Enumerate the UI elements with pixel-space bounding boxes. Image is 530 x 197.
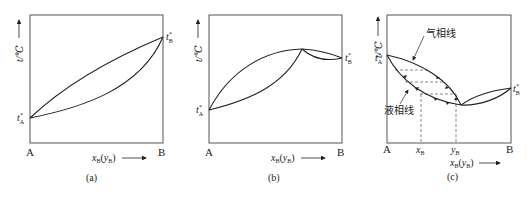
axis-end-label-B: B bbox=[506, 143, 513, 155]
panel-caption: (c) bbox=[447, 171, 458, 183]
liquid-curve-left bbox=[209, 49, 302, 110]
vapor-curve bbox=[30, 37, 163, 118]
tA-label: t*A bbox=[196, 104, 204, 117]
plot-frame bbox=[209, 15, 342, 143]
xB-tick-label: xB bbox=[415, 144, 424, 156]
tB-label: t*B bbox=[513, 83, 520, 96]
liquid-curve-right bbox=[461, 88, 511, 105]
axis-end-label-A: A bbox=[26, 146, 34, 158]
y-axis-label: t/℃ bbox=[14, 45, 25, 62]
vapor-curve-left bbox=[209, 49, 302, 110]
vapor-curve-right bbox=[461, 88, 511, 105]
liquid-curve-right bbox=[302, 49, 342, 60]
liquid-curve bbox=[30, 37, 163, 118]
direction-arrow-icons bbox=[403, 75, 458, 105]
x-axis-label: xB(yB) bbox=[449, 157, 474, 169]
panel-caption: (a) bbox=[86, 172, 97, 184]
x-axis-label: xB(yB) bbox=[270, 152, 295, 164]
liquid-label-pointer bbox=[400, 90, 408, 104]
tB-label: t*B bbox=[345, 52, 352, 65]
plot-frame bbox=[30, 15, 163, 143]
axis-end-label-B: B bbox=[158, 146, 165, 158]
liquid-line-label: 液相线 bbox=[384, 104, 414, 116]
liquid-curve bbox=[387, 55, 461, 105]
axis-end-label-A: A bbox=[383, 143, 391, 155]
tA-label: t*A bbox=[17, 112, 25, 125]
vapor-curve bbox=[387, 55, 461, 105]
yB-tick-label: yB bbox=[450, 144, 459, 156]
panel-caption: (b) bbox=[268, 172, 280, 184]
panel-a: t/℃ t*A t*B A B xB(yB) (a) bbox=[14, 15, 173, 184]
axis-end-label-A: A bbox=[205, 146, 213, 158]
panel-c: t/℃ 气相线 液相线 bbox=[373, 15, 520, 183]
tB-label: t*B bbox=[166, 31, 173, 44]
vapor-label-pointer bbox=[413, 36, 424, 60]
x-axis-label: xB(yB) bbox=[91, 152, 116, 164]
vapor-line-label: 气相线 bbox=[426, 27, 456, 39]
y-axis-label: t/℃ bbox=[193, 45, 204, 62]
panel-b: t/℃ t*A t*B A B xB(yB) (b) bbox=[193, 15, 352, 184]
axis-end-label-B: B bbox=[337, 146, 344, 158]
